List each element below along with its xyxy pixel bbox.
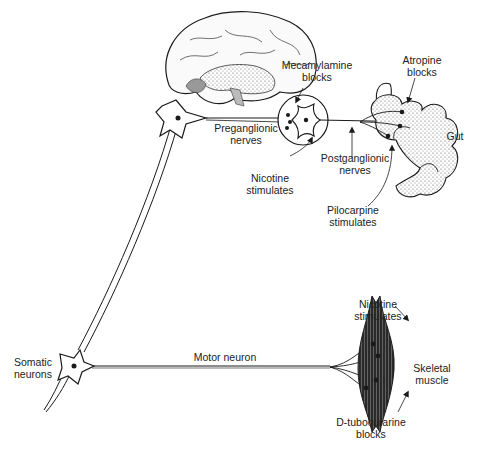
somatic-label: Somatic neurons — [14, 356, 74, 380]
pilocarpine-label: Pilocarpine stimulates — [318, 204, 388, 228]
skeletal-muscle-line1: Skeletal — [402, 362, 462, 374]
motor-neuron-line1: Motor neuron — [180, 351, 270, 363]
preganglionic-line1: Preganglionic — [206, 122, 286, 134]
atropine-line2: blocks — [392, 66, 452, 78]
nicotine-ganglion-line1: Nicotine — [240, 172, 300, 184]
atropine-label: Atropine blocks — [392, 54, 452, 78]
mecamylamine-line1: Mecamylamine — [272, 59, 362, 71]
preganglionic-label: Preganglionic nerves — [206, 122, 286, 146]
gut-line1: Gut — [440, 130, 470, 142]
atropine-line1: Atropine — [392, 54, 452, 66]
tubocurarine-line1: D-tubocurarine — [326, 416, 416, 428]
postganglionic-line2: nerves — [310, 164, 400, 176]
nicotine-muscle-line2: stimulates — [348, 310, 408, 322]
tubocurarine-label: D-tubocurarine blocks — [326, 416, 416, 440]
pilocarpine-line1: Pilocarpine — [318, 204, 388, 216]
nicotine-ganglion-line2: stimulates — [240, 184, 300, 196]
gut-label: Gut — [440, 130, 470, 142]
postganglionic-label: Postganglionic nerves — [310, 152, 400, 176]
mecamylamine-line2: blocks — [272, 71, 362, 83]
cns-neuron-icon — [156, 100, 206, 138]
skeletal-muscle-line2: muscle — [402, 374, 462, 386]
somatic-line2: neurons — [14, 368, 74, 380]
preganglionic-line2: nerves — [206, 134, 286, 146]
mecamylamine-label: Mecamylamine blocks — [272, 59, 362, 83]
pilocarpine-line2: stimulates — [318, 216, 388, 228]
postganglionic-line1: Postganglionic — [310, 152, 400, 164]
nicotine-ganglion-label: Nicotine stimulates — [240, 172, 300, 196]
somatic-line1: Somatic — [14, 356, 74, 368]
nicotine-muscle-label: Nicotine stimulates — [348, 298, 408, 322]
nicotine-muscle-line1: Nicotine — [348, 298, 408, 310]
pharmacology-diagram: Mecamylamine blocks Atropine blocks Gut … — [0, 0, 488, 449]
tubocurarine-line2: blocks — [326, 428, 416, 440]
skeletal-muscle-label: Skeletal muscle — [402, 362, 462, 386]
motor-neuron-label: Motor neuron — [180, 351, 270, 363]
